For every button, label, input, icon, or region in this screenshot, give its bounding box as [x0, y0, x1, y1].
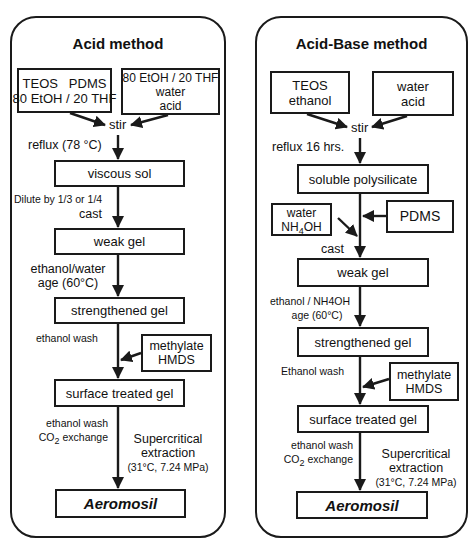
- box-line: acid: [159, 99, 181, 113]
- acid-viscous-sol-box: viscous sol: [54, 160, 185, 187]
- acid-stir-label: stir: [109, 118, 126, 132]
- box-line: ethanol: [289, 93, 332, 108]
- label-line: (31°C, 7.24 MPa): [120, 460, 216, 474]
- label-line: (31°C, 7.24 MPa): [366, 475, 466, 489]
- acid-supercritical-label: Supercritical extraction (31°C, 7.24 MPa…: [120, 432, 216, 474]
- oh-text: OH: [304, 220, 322, 234]
- acid-dilute-label: Dilute by 1/3 or 1/4: [14, 192, 102, 206]
- box-line: methylate: [149, 339, 203, 353]
- acid-weak-gel-box: weak gel: [54, 228, 185, 255]
- acid-base-soluble-polysilicate-box: soluble polysilicate: [297, 164, 429, 194]
- box-line: water: [287, 206, 316, 220]
- acid-ethanol-wash-label: ethanol wash: [36, 331, 98, 345]
- acid-base-reflux-label: reflux 16 hrs.: [272, 140, 344, 154]
- acid-base-input-box-water-acid: water acid: [372, 71, 454, 116]
- acid-base-weak-gel-box: weak gel: [297, 258, 429, 287]
- label-line: CO2 exchange: [270, 452, 353, 466]
- acid-aeromosil-box: Aeromosil: [55, 489, 186, 518]
- acid-surface-treated-gel-box: surface treated gel: [54, 379, 185, 407]
- label-line: ethanol wash: [28, 416, 108, 430]
- acid-base-supercritical-label: Supercritical extraction (31°C, 7.24 MPa…: [366, 447, 466, 489]
- acid-co2-exchange-label: ethanol wash CO2 exchange: [28, 416, 108, 444]
- label-line: age (60°C): [26, 276, 110, 290]
- acid-base-stir-label: stir: [351, 121, 368, 135]
- acid-base-strengthened-gel-box: strengthened gel: [297, 327, 429, 357]
- exchange-text: exchange: [305, 453, 353, 465]
- acid-base-methylate-hmds-box: methylate HMDS: [389, 362, 459, 401]
- box-line: TEOS PDMS: [23, 76, 107, 91]
- nh-text: NH: [281, 220, 298, 234]
- acid-base-ethanol-wash-label: Ethanol wash: [281, 364, 344, 378]
- acid-base-input-box-teos-ethanol: TEOS ethanol: [270, 71, 350, 114]
- box-line: acid: [401, 94, 425, 109]
- label-line: age (60°C): [266, 308, 354, 322]
- box-line: water: [397, 79, 429, 94]
- acid-base-co2-exchange-label: ethanol wash CO2 exchange: [270, 438, 353, 466]
- co2-text: CO: [39, 431, 55, 443]
- box-line: HMDS: [406, 382, 443, 396]
- acid-cast-label: cast: [79, 207, 102, 221]
- box-line: water: [156, 85, 185, 99]
- label-line: extraction: [366, 461, 466, 475]
- box-line: TEOS: [292, 78, 327, 93]
- acid-reflux-label: reflux (78 °C): [28, 138, 102, 152]
- label-line: Supercritical: [366, 447, 466, 461]
- box-line: methylate: [397, 368, 451, 382]
- label-line: Supercritical: [120, 432, 216, 446]
- box-line: HMDS: [158, 353, 195, 367]
- label-line: ethanol wash: [270, 438, 353, 452]
- label-line: CO2 exchange: [28, 430, 108, 444]
- acid-method-title: Acid method: [10, 35, 226, 52]
- box-line: 80 EtOH / 20 THF: [13, 91, 117, 106]
- exchange-text: exchange: [60, 431, 108, 443]
- box-line: 80 EtOH / 20 THF: [123, 71, 219, 85]
- acid-input-box-solvent-water-acid: 80 EtOH / 20 THF water acid: [121, 68, 220, 115]
- label-line: extraction: [120, 446, 216, 460]
- acid-base-surface-treated-gel-box: surface treated gel: [297, 405, 429, 433]
- acid-strengthened-gel-box: strengthened gel: [54, 297, 185, 324]
- acid-base-cast-label: cast: [321, 242, 344, 256]
- acid-base-aeromosil-box: Aeromosil: [296, 491, 428, 519]
- acid-input-box-teos-pdms: TEOS PDMS 80 EtOH / 20 THF: [17, 68, 112, 113]
- acid-base-method-title: Acid-Base method: [255, 35, 468, 52]
- box-line: NH4OH: [281, 220, 321, 234]
- co2-text: CO: [284, 453, 300, 465]
- acid-base-pdms-box: PDMS: [386, 200, 454, 233]
- acid-base-age-label: ethanol / NH4OH age (60°C): [266, 294, 354, 322]
- acid-methylate-hmds-box: methylate HMDS: [141, 334, 212, 372]
- label-line: ethanol / NH4OH: [266, 294, 354, 308]
- acid-age-label: ethanol/water age (60°C): [26, 262, 110, 290]
- label-line: ethanol/water: [26, 262, 110, 276]
- acid-base-water-nh4oh-box: water NH4OH: [271, 203, 332, 236]
